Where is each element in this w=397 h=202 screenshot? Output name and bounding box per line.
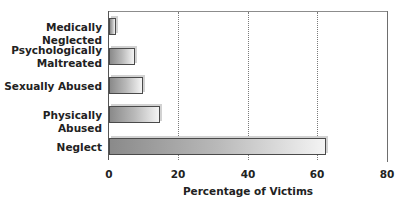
- category-label-sexually-abused: Sexually Abused: [4, 80, 102, 93]
- x-axis-title: Percentage of Victims: [109, 185, 387, 197]
- plot-frame-right: [387, 11, 388, 162]
- x-tick-60: 60: [302, 168, 332, 180]
- bar-medically-neglected: [109, 18, 116, 35]
- x-tick-20: 20: [163, 168, 193, 180]
- x-tick-0: 0: [94, 168, 124, 180]
- category-label-psychologically-maltreated: Psychologically Maltreated: [11, 44, 102, 70]
- bar-physically-abused: [109, 106, 160, 123]
- category-label-physically-abused: Physically Abused: [0, 109, 102, 135]
- horizontal-bar-chart: Medically Neglected Psychologically Malt…: [0, 0, 397, 202]
- x-tick-80: 80: [372, 168, 397, 180]
- bar-neglect: [109, 138, 326, 155]
- bar-psychologically-maltreated: [109, 48, 135, 65]
- x-tick-40: 40: [233, 168, 263, 180]
- category-label-neglect: Neglect: [57, 141, 102, 154]
- bar-sexually-abused: [109, 77, 143, 94]
